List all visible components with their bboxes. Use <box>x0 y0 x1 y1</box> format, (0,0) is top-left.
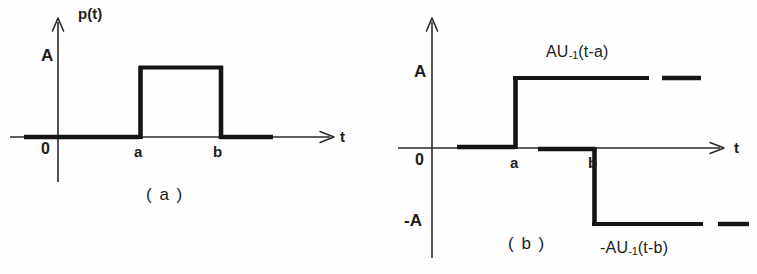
panel-b-upper-function-subscript: -1 <box>569 49 579 61</box>
panel-b-lower-function-prefix: -AU <box>600 239 628 256</box>
panel-a-amplitude-label: A <box>41 47 53 64</box>
panel-b-tick-b: b <box>588 155 597 170</box>
panel-b-upper-function-prefix: AU <box>546 43 569 60</box>
panel-b-negative-amplitude-label: -A <box>404 212 422 229</box>
panel-b-upper-function-label: AU-1(t-a) <box>546 44 609 61</box>
panel-b-tick-a: a <box>510 155 518 170</box>
panel-b-amplitude-label: A <box>414 63 426 80</box>
panel-a-caption: ( a ) <box>146 186 184 203</box>
panel-a-y-axis-label: p(t) <box>78 6 102 21</box>
panel-b-origin-label: 0 <box>415 152 424 168</box>
panel-a-axes <box>10 18 334 182</box>
panel-b-lower-function-label: -AU-1(t-b) <box>600 240 668 257</box>
panel-b-caption: ( b ) <box>508 235 546 252</box>
panel-a-x-axis-label: t <box>340 129 345 144</box>
panel-b-upper-function-suffix: (t-a) <box>578 43 608 60</box>
panel-a-origin-label: 0 <box>41 141 50 157</box>
panel-a-tick-b: b <box>213 144 222 159</box>
panel-b-upper-step-curve <box>457 77 701 149</box>
panel-a-tick-a: a <box>134 144 142 159</box>
panel-b-lower-step-curve <box>538 147 749 225</box>
panel-b-lower-function-suffix: (t-b) <box>638 239 668 256</box>
panel-b-x-axis-label: t <box>734 140 739 155</box>
figure-canvas <box>0 0 757 274</box>
panel-b-lower-function-subscript: -1 <box>628 245 638 257</box>
panel-a-pulse-curve <box>24 66 273 139</box>
figure-container: p(t) A 0 a b t ( a ) A -A 0 a b t AU-1(t… <box>0 0 757 274</box>
